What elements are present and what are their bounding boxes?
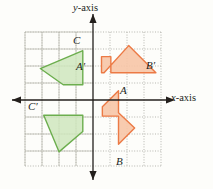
vertex-label-B-prime: B′ bbox=[146, 60, 155, 71]
vertex-label-C-prime: C′ bbox=[28, 101, 38, 112]
vertex-label-A: A bbox=[120, 85, 127, 96]
vertex-label-B: B bbox=[116, 156, 123, 167]
vertex-label-C: C bbox=[73, 35, 80, 46]
y-axis-label: y-axis bbox=[73, 3, 98, 14]
y-axis-label-suffix: -axis bbox=[78, 2, 98, 13]
x-axis-label-suffix: -axis bbox=[176, 92, 196, 103]
coordinate-plane-figure: y-axis x-axis C A′ B′ A B C′ bbox=[0, 0, 213, 189]
vertex-label-A-prime: A′ bbox=[76, 61, 85, 72]
x-axis-label: x-axis bbox=[171, 93, 196, 104]
